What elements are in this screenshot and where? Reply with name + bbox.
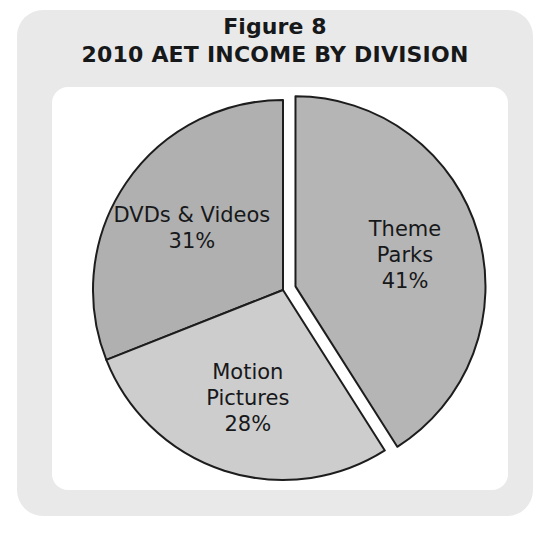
figure-root: Figure 8 2010 AET INCOME BY DIVISION The… bbox=[0, 0, 550, 542]
pie-chart: ThemeParks41% DVDs & Videos31% MotionPic… bbox=[52, 87, 508, 490]
figure-title: Figure 8 2010 AET INCOME BY DIVISION bbox=[17, 14, 533, 68]
figure-title-line-2: 2010 AET INCOME BY DIVISION bbox=[17, 42, 533, 68]
figure-title-line-1: Figure 8 bbox=[17, 14, 533, 40]
